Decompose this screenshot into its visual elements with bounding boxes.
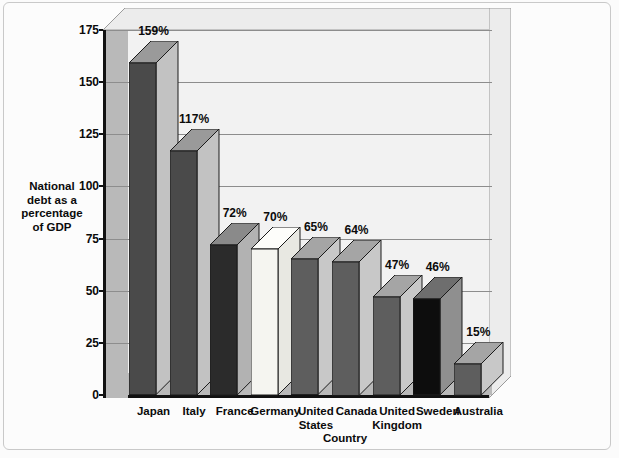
bar-value-label: 46% — [408, 260, 468, 274]
x-axis-ticks: JapanItalyFranceGermanyUnitedStatesCanad… — [103, 398, 511, 458]
x-tick-label-line: States — [281, 419, 351, 433]
bars-layer: 159%117%72%70%65%64%47%46%15% — [103, 8, 511, 398]
y-tick-label: 125 — [59, 127, 99, 141]
y-axis-ticks: 0255075100125150175 — [55, 0, 99, 458]
bar-value-label: 64% — [327, 223, 387, 237]
y-tick-label: 175 — [59, 23, 99, 37]
y-tick-label: 150 — [59, 75, 99, 89]
x-tick-label-line: Australia — [443, 405, 513, 419]
y-tick-label: 25 — [59, 336, 99, 350]
bar-value-label: 15% — [448, 325, 508, 339]
bar-3d-shape — [454, 342, 505, 397]
bar-value-label: 117% — [164, 112, 224, 126]
bar — [454, 342, 503, 395]
y-tick-label: 100 — [59, 179, 99, 193]
chart-root: National debt as a percentage of GDP 025… — [0, 0, 619, 458]
x-axis-title: Country — [300, 432, 390, 444]
y-tick-label: 0 — [59, 388, 99, 402]
x-tick-label: Australia — [443, 405, 513, 419]
y-tick-label: 50 — [59, 284, 99, 298]
bar-value-label: 159% — [124, 24, 184, 38]
x-tick-label-line: Kingdom — [362, 419, 432, 433]
y-tick-label: 75 — [59, 232, 99, 246]
